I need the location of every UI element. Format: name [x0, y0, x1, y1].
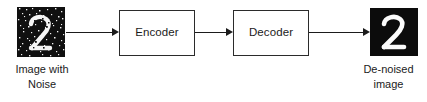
arrow-head-icon — [226, 28, 233, 36]
arrow-decoder-to-output — [309, 28, 370, 37]
arrow-head-icon — [112, 28, 119, 36]
arrow-shaft — [309, 32, 363, 34]
input-caption-line2: Noise — [2, 77, 82, 92]
output-caption-line2: image — [350, 77, 427, 92]
arrow-encoder-to-decoder — [195, 28, 233, 37]
arrow-shaft — [195, 32, 226, 34]
denoised-digit-image — [370, 8, 418, 56]
decoder-box[interactable]: Decoder — [233, 10, 309, 56]
denoised-digit-graphic — [370, 8, 418, 56]
input-caption-line1: Image with — [2, 62, 82, 77]
input-image-caption: Image with Noise — [2, 62, 82, 92]
arrow-input-to-encoder — [66, 28, 119, 37]
encoder-label: Encoder — [135, 27, 179, 39]
noisy-digit-image — [17, 7, 65, 57]
arrow-head-icon — [363, 28, 370, 36]
decoder-label: Decoder — [249, 27, 293, 39]
encoder-box[interactable]: Encoder — [119, 10, 195, 56]
output-caption-line1: De-noised — [350, 62, 427, 77]
output-image-caption: De-noised image — [350, 62, 427, 92]
noisy-digit-graphic — [17, 7, 65, 57]
arrow-shaft — [66, 32, 112, 34]
diagram-canvas: Image with Noise Encoder Decoder De-no — [0, 0, 427, 102]
